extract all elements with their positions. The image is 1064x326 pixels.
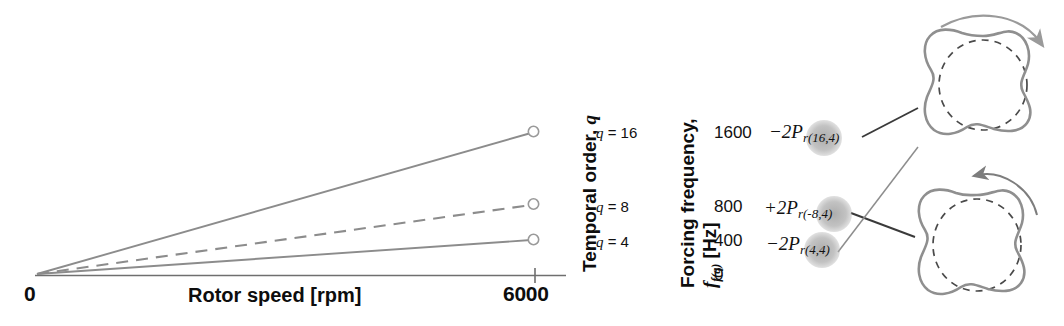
x-tick-label-6000: 6000 xyxy=(503,283,549,304)
connector-f16-to-mode-top xyxy=(862,108,918,137)
mode-top-nominal-circle xyxy=(939,40,1027,130)
mode-shape-top xyxy=(925,16,1040,134)
mode-shape-bottom xyxy=(919,174,1037,294)
trace-q4[interactable] xyxy=(37,234,539,274)
forcing-frequency-axis-title-line1: Forcing frequency, xyxy=(678,118,697,288)
connector-fm8-to-mode-bottom xyxy=(851,213,915,237)
legend-entry-q4: q = 4 xyxy=(596,234,629,250)
mode-bottom-deformed-shape xyxy=(919,190,1025,294)
legend-entry-q16: q = 16 xyxy=(596,125,637,141)
connector-lines xyxy=(838,108,918,252)
x-tick-label-0: 0 xyxy=(24,283,35,304)
vector-layer xyxy=(0,0,1064,326)
trace-q8[interactable] xyxy=(37,199,539,274)
x-axis xyxy=(35,268,566,283)
freq-tick-label-800: 800 xyxy=(714,198,742,215)
marker-q16[interactable] xyxy=(528,126,538,136)
marker-q8[interactable] xyxy=(528,199,538,209)
temporal-order-axis-symbol: q xyxy=(579,115,600,125)
x-axis-title: Rotor speed [rpm] xyxy=(188,285,361,305)
force-label-f16: −2Pr(16,4) xyxy=(769,121,839,146)
force-label-fm8: +2Pr(-8,4) xyxy=(764,197,832,222)
figure-canvas: 0 6000 Rotor speed [rpm] Temporal order,… xyxy=(0,0,1064,326)
marker-q4[interactable] xyxy=(528,234,538,244)
clockwise-rotation-arrow xyxy=(941,16,1040,42)
mode-bottom-nominal-circle xyxy=(933,199,1021,291)
trace-q16[interactable] xyxy=(37,126,539,274)
connector-f4-to-mode-top xyxy=(838,147,918,252)
mode-top-deformed-shape xyxy=(925,30,1031,134)
freq-tick-label-400: 400 xyxy=(714,232,742,249)
force-label-f4: −2Pr(4,4) xyxy=(766,233,830,258)
legend-entry-q8: q = 8 xyxy=(596,199,629,215)
freq-tick-label-1600: 1600 xyxy=(714,124,752,141)
freq-tick-label-0: 0 xyxy=(714,266,723,283)
